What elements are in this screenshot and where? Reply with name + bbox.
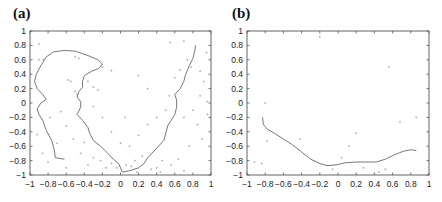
curve-line — [263, 117, 417, 165]
plot-area-b: −1−0.8−0.6−0.4−0.200.20.40.60.8110.80.60… — [226, 26, 431, 189]
sample-point — [183, 40, 185, 42]
sample-point — [83, 142, 85, 144]
sample-point — [92, 106, 94, 108]
x-tick-label: 0.2 — [133, 179, 145, 189]
sample-point — [362, 167, 364, 169]
sample-point — [49, 116, 51, 118]
sample-point — [264, 102, 266, 104]
sample-point — [110, 131, 112, 133]
sample-point — [299, 138, 301, 140]
sample-point — [156, 116, 158, 118]
sample-point — [206, 114, 208, 116]
sample-point — [36, 134, 38, 136]
sample-point — [183, 170, 185, 172]
sample-point — [125, 164, 127, 166]
sample-point — [203, 80, 205, 82]
sample-point — [355, 132, 357, 134]
sample-point — [266, 140, 268, 142]
x-tick-label: −1 — [242, 179, 252, 189]
sample-point — [129, 145, 131, 147]
sample-point — [253, 161, 255, 163]
x-tick-label: −0.4 — [293, 179, 310, 189]
chart-canvas: −1−0.8−0.6−0.4−0.200.20.40.60.8110.80.60… — [0, 0, 442, 202]
sample-point — [72, 138, 74, 140]
x-tick-label: −0.6 — [58, 179, 75, 189]
sample-point — [196, 124, 198, 126]
sample-point — [134, 160, 136, 162]
sample-point — [101, 116, 103, 118]
y-tick-label: 0 — [21, 98, 26, 108]
y-tick-label: −0.6 — [226, 141, 243, 151]
sample-point — [116, 167, 118, 169]
sample-point — [141, 155, 143, 157]
y-tick-label: 0 — [238, 98, 243, 108]
sample-point — [80, 152, 82, 154]
sample-point — [170, 164, 172, 166]
sample-point — [165, 109, 167, 111]
sample-point — [138, 75, 140, 77]
x-tick-label: −1 — [25, 179, 35, 189]
sample-point — [105, 167, 107, 169]
y-tick-label: −0.4 — [9, 127, 26, 137]
x-tick-label: 0 — [118, 179, 123, 189]
sample-point — [415, 116, 417, 118]
sample-point — [74, 90, 76, 92]
sample-point — [159, 171, 161, 173]
sample-point — [67, 79, 69, 81]
sample-point — [199, 95, 201, 97]
x-tick-label: 0.6 — [387, 179, 399, 189]
sample-point — [183, 116, 185, 118]
sample-point — [388, 66, 390, 68]
axes-frame — [247, 31, 429, 175]
sample-point — [192, 109, 194, 111]
sample-point — [110, 70, 112, 72]
y-tick-label: −0.2 — [226, 112, 243, 122]
y-tick-label: −0.8 — [9, 156, 26, 166]
sample-point — [138, 134, 140, 136]
y-tick-label: 0.4 — [231, 69, 243, 79]
sample-point — [161, 160, 163, 162]
sample-point — [65, 167, 67, 169]
y-tick-label: 0.8 — [231, 40, 243, 50]
y-tick-label: 0.8 — [14, 40, 26, 50]
sample-point — [206, 101, 208, 103]
sample-point — [186, 59, 188, 61]
sample-point — [87, 164, 89, 166]
x-tick-label: −0.6 — [275, 179, 292, 189]
y-tick-label: 0.6 — [14, 55, 26, 65]
axes-frame — [30, 31, 211, 175]
sample-point — [60, 111, 62, 113]
y-tick-label: −0.4 — [226, 127, 243, 137]
sample-point — [199, 70, 201, 72]
x-tick-label: 0 — [336, 179, 341, 189]
sample-point — [38, 43, 40, 45]
sample-point — [120, 142, 122, 144]
plot-area-a: −1−0.8−0.6−0.4−0.200.20.40.60.8110.80.60… — [9, 26, 213, 189]
sample-point — [70, 80, 72, 82]
sample-point — [38, 59, 40, 61]
x-tick-label: 0.8 — [187, 179, 199, 189]
x-tick-label: 0.8 — [405, 179, 417, 189]
sample-point — [124, 116, 126, 118]
sample-point — [168, 95, 170, 97]
sample-point — [174, 77, 176, 79]
y-tick-label: −0.2 — [9, 112, 26, 122]
sample-point — [188, 145, 190, 147]
x-tick-label: −0.4 — [76, 179, 93, 189]
sample-point — [56, 142, 58, 144]
sample-point — [399, 121, 401, 123]
sample-point — [87, 80, 89, 82]
sample-point — [65, 125, 67, 127]
x-tick-label: 1 — [427, 179, 432, 189]
x-tick-label: −0.2 — [311, 179, 328, 189]
sample-point — [47, 161, 49, 163]
y-tick-label: −0.8 — [226, 156, 243, 166]
sample-point — [92, 157, 94, 159]
y-tick-label: 0.6 — [231, 55, 243, 65]
y-tick-label: 1 — [238, 26, 243, 36]
sample-point — [169, 42, 171, 44]
x-tick-label: 0.2 — [350, 179, 362, 189]
y-tick-label: −1 — [233, 170, 243, 180]
sample-point — [147, 88, 149, 90]
x-tick-label: 0.4 — [151, 179, 163, 189]
